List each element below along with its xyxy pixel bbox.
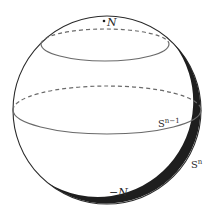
upper-circle-back bbox=[41, 29, 169, 44]
sphere-diagram: N −N Sn−1 Sn bbox=[0, 0, 214, 220]
sphere-label-sup: n bbox=[198, 158, 203, 166]
equator-label: Sn−1 bbox=[158, 117, 180, 129]
equator-back bbox=[13, 86, 201, 110]
upper-circle-front bbox=[41, 44, 169, 61]
sphere-label: Sn bbox=[191, 158, 203, 170]
equator-label-sup: n−1 bbox=[165, 117, 180, 125]
south-pole-label: −N bbox=[109, 186, 128, 199]
south-pole-point bbox=[106, 198, 109, 201]
north-pole-label: N bbox=[106, 16, 117, 29]
north-pole-point bbox=[103, 20, 106, 23]
